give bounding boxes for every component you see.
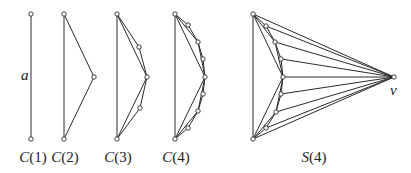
vertex bbox=[281, 75, 285, 79]
graph-c1: aC(1) bbox=[19, 12, 47, 166]
edge bbox=[253, 14, 266, 26]
edge bbox=[140, 77, 147, 108]
vertex bbox=[196, 40, 200, 44]
vertex bbox=[186, 126, 190, 130]
edge bbox=[253, 14, 394, 77]
vertex bbox=[137, 45, 141, 49]
edge bbox=[64, 77, 94, 139]
edge bbox=[253, 14, 283, 77]
vertex bbox=[115, 137, 119, 141]
vertex bbox=[145, 75, 149, 79]
edge bbox=[188, 111, 198, 128]
edge bbox=[266, 26, 394, 77]
graph-caption: C(2) bbox=[51, 149, 79, 166]
edge bbox=[253, 77, 394, 139]
edge bbox=[117, 108, 140, 139]
vertex bbox=[196, 109, 200, 113]
edge bbox=[188, 25, 198, 42]
edge bbox=[281, 59, 394, 77]
vertex bbox=[173, 137, 177, 141]
edge bbox=[275, 42, 394, 77]
edge bbox=[281, 77, 394, 94]
graph-c3: C(3) bbox=[104, 12, 149, 166]
vertex bbox=[264, 24, 268, 28]
vertex bbox=[273, 40, 277, 44]
graph-caption: C(1) bbox=[19, 149, 47, 166]
vertex bbox=[62, 137, 66, 141]
vertex bbox=[201, 57, 205, 61]
vertex bbox=[29, 137, 33, 141]
vertex bbox=[29, 12, 33, 16]
edge bbox=[276, 94, 281, 112]
vertex bbox=[392, 75, 396, 79]
edge bbox=[117, 14, 139, 47]
vertex bbox=[201, 92, 205, 96]
vertex bbox=[173, 12, 177, 16]
vertex bbox=[62, 12, 66, 16]
vertex-label: a bbox=[21, 67, 29, 83]
graph-caption: S(4) bbox=[302, 149, 327, 166]
graph-caption: C(4) bbox=[162, 149, 190, 166]
vertex bbox=[274, 110, 278, 114]
graph-c4: C(4) bbox=[162, 12, 207, 166]
vertex bbox=[264, 126, 268, 130]
graph-c2: C(2) bbox=[51, 12, 96, 166]
edge bbox=[276, 77, 394, 112]
edge bbox=[266, 77, 394, 128]
vertex bbox=[138, 106, 142, 110]
graph-s4: vS(4) bbox=[251, 12, 397, 166]
vertex bbox=[279, 57, 283, 61]
vertex bbox=[115, 12, 119, 16]
edge bbox=[117, 14, 147, 77]
vertex bbox=[251, 137, 255, 141]
vertex bbox=[203, 75, 207, 79]
edge bbox=[266, 26, 275, 42]
vertex bbox=[251, 12, 255, 16]
graph-caption: C(3) bbox=[104, 149, 132, 166]
vertex bbox=[92, 75, 96, 79]
edge bbox=[64, 14, 94, 77]
vertex-label: v bbox=[390, 82, 397, 98]
vertex bbox=[186, 23, 190, 27]
graph-sequence-diagram: aC(1)C(2)C(3)C(4)vS(4) bbox=[0, 0, 411, 173]
vertex bbox=[279, 92, 283, 96]
